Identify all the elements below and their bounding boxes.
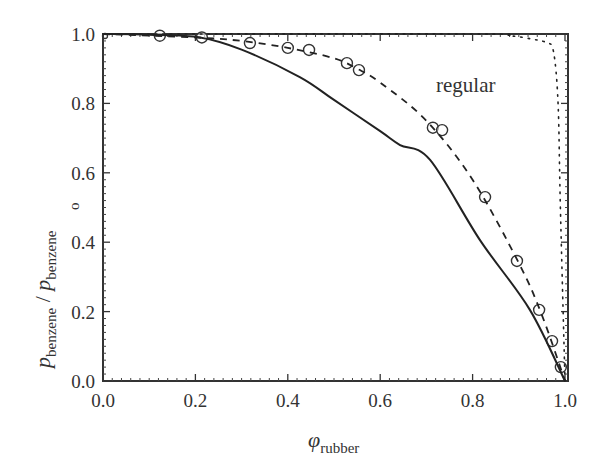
y-tick-label: 1.0: [71, 24, 95, 45]
data-point: [437, 125, 448, 136]
x-tick-label: 1.0: [553, 390, 577, 411]
tick-labels: 0.00.20.40.60.81.00.00.20.40.60.81.0: [71, 24, 577, 411]
y-tick-label: 0.4: [71, 232, 95, 253]
y-tick-label: 0.2: [71, 302, 95, 323]
y-tick-label: 0.8: [71, 93, 95, 114]
annotation-regular: regular: [436, 73, 495, 97]
solid-curve: [103, 34, 565, 381]
x-axis-label: φrubber: [308, 427, 359, 456]
chart: 0.00.20.40.60.81.00.00.20.40.60.81.0 reg…: [0, 0, 599, 466]
y-axis-label-superscript: o: [66, 203, 82, 211]
x-tick-label: 0.4: [276, 390, 300, 411]
y-axis-label: pbenzene / pbenzene: [30, 230, 59, 370]
axis-ticks: [103, 34, 568, 381]
x-tick-label: 0.8: [461, 390, 485, 411]
data-point: [244, 38, 255, 49]
regular-dotted-curve: [103, 34, 565, 381]
x-tick-label: 0.6: [368, 390, 392, 411]
y-tick-label: 0.6: [71, 163, 95, 184]
x-tick-label: 0.0: [91, 390, 115, 411]
series-layer: [103, 30, 567, 381]
x-tick-label: 0.2: [184, 390, 208, 411]
y-tick-label: 0.0: [71, 371, 95, 392]
dashed-curve: [103, 34, 565, 381]
plot-border: [103, 34, 568, 381]
data-point: [341, 58, 352, 69]
plot-frame: [103, 34, 568, 381]
